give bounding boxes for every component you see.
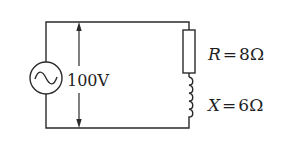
circuit-diagram: 100V R=8Ω X=6Ω bbox=[0, 0, 297, 156]
reactance-value: 6Ω bbox=[238, 95, 263, 115]
reactance-equals: = bbox=[222, 95, 236, 115]
bottom-wire bbox=[46, 94, 189, 128]
resistor-symbol: R bbox=[207, 44, 221, 64]
svg-text:R=8Ω: R=8Ω bbox=[207, 44, 264, 64]
resistor-label: R=8Ω bbox=[207, 44, 264, 64]
arrow-down-icon bbox=[76, 119, 81, 128]
resistor-icon bbox=[183, 30, 195, 73]
resistor-equals: = bbox=[223, 44, 237, 64]
voltage-label: 100V bbox=[67, 71, 110, 90]
reactance-label: X=6Ω bbox=[206, 95, 263, 115]
reactance-symbol: X bbox=[206, 95, 221, 115]
svg-text:X=6Ω: X=6Ω bbox=[206, 95, 263, 115]
top-wire bbox=[46, 22, 189, 62]
inductor-coil-icon bbox=[189, 77, 193, 120]
resistor-value: 8Ω bbox=[239, 44, 264, 64]
ac-source-icon bbox=[30, 62, 62, 94]
sine-wave-icon bbox=[35, 72, 57, 84]
arrow-up-icon bbox=[76, 22, 81, 31]
